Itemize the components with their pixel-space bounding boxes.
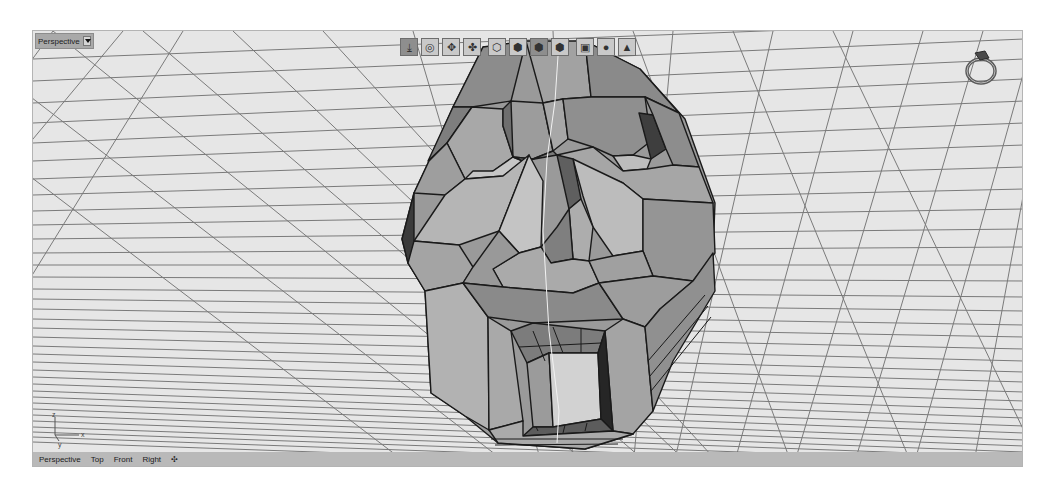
rendered-icon: ⬢	[534, 41, 544, 54]
svg-text:x: x	[81, 431, 85, 438]
add-viewport-icon[interactable]: ✣	[171, 455, 178, 464]
shaded-icon: ⬢	[513, 41, 523, 54]
orbit-button[interactable]: ◎	[421, 38, 439, 56]
orbit-icon: ◎	[425, 41, 435, 54]
viewport-menu-arrow-icon[interactable]	[83, 36, 91, 46]
rotate-view-button[interactable]: ⤓	[400, 38, 418, 56]
axis-indicator-icon: z x y	[41, 409, 101, 449]
view-toolbar: ⤓ ◎ ✥ ✤ ⬡ ⬢ ⬢ ⬢ ▣ ● ▲	[400, 38, 636, 56]
material-sphere-icon: ●	[603, 41, 610, 53]
viewport-title-menu[interactable]: Perspective	[35, 33, 94, 49]
shaded-button[interactable]: ⬢	[509, 38, 527, 56]
polygon-mesh-model[interactable]	[402, 41, 715, 449]
pan-button[interactable]: ✥	[442, 38, 460, 56]
zoom-icon: ✤	[468, 41, 477, 54]
tab-front[interactable]: Front	[114, 455, 133, 464]
svg-text:y: y	[58, 441, 62, 449]
ring-icon[interactable]	[960, 45, 1002, 87]
xray-button[interactable]: ▣	[576, 38, 594, 56]
ghosted-icon: ⬢	[555, 41, 565, 54]
tab-top[interactable]: Top	[91, 455, 104, 464]
viewport-tabs: Perspective Top Front Right ✣	[33, 452, 1022, 466]
wireframe-button[interactable]: ⬡	[488, 38, 506, 56]
material-sphere-button[interactable]: ●	[597, 38, 615, 56]
xray-icon: ▣	[580, 41, 590, 54]
rotate-view-icon: ⤓	[407, 41, 412, 54]
rendered-button[interactable]: ⬢	[530, 38, 548, 56]
pan-icon: ✥	[447, 41, 456, 54]
svg-text:z: z	[52, 411, 56, 418]
zoom-button[interactable]: ✤	[463, 38, 481, 56]
perspective-viewport[interactable]: Perspective ⤓ ◎ ✥ ✤ ⬡ ⬢ ⬢ ⬢ ▣ ● ▲ z x y …	[32, 30, 1023, 467]
ghosted-button[interactable]: ⬢	[551, 38, 569, 56]
tab-right[interactable]: Right	[142, 455, 161, 464]
drop-icon: ▲	[622, 41, 633, 53]
drop-button[interactable]: ▲	[618, 38, 636, 56]
wireframe-icon: ⬡	[492, 41, 502, 54]
tab-perspective[interactable]: Perspective	[39, 455, 81, 464]
viewport-title: Perspective	[38, 37, 80, 46]
3d-scene[interactable]	[33, 31, 1023, 467]
